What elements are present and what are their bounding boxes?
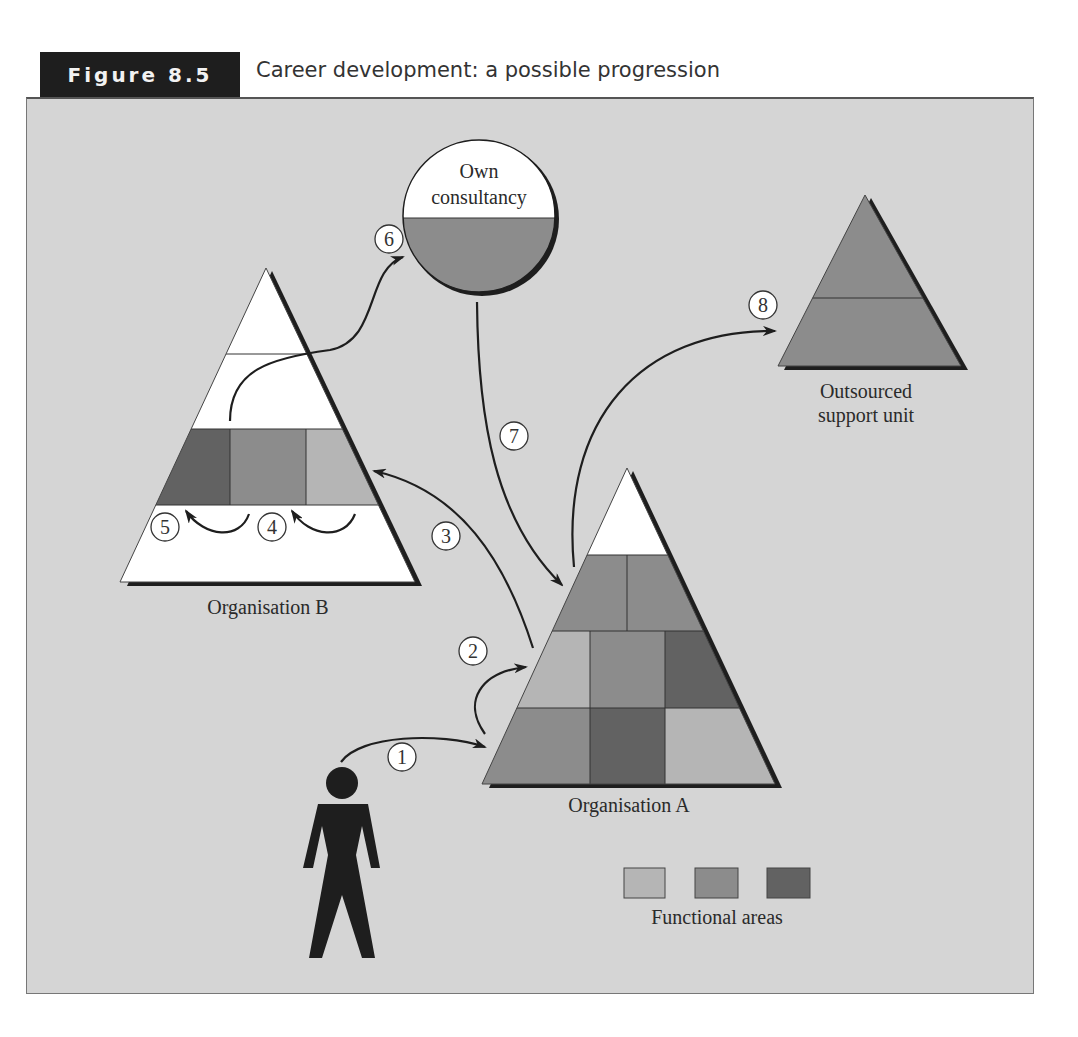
consultancy-label-line1: Own bbox=[460, 160, 499, 182]
outsourced-unit-pyramid: Outsourced support unit bbox=[770, 190, 970, 427]
svg-text:1: 1 bbox=[397, 746, 407, 768]
organisation-b-pyramid: Organisation B bbox=[100, 260, 440, 619]
svg-text:4: 4 bbox=[267, 516, 277, 538]
svg-text:5: 5 bbox=[160, 516, 170, 538]
legend: Functional areas bbox=[624, 868, 810, 928]
step-marker-5: 5 bbox=[151, 513, 179, 541]
organisation-b-label: Organisation B bbox=[207, 596, 328, 619]
org-b-area-mid bbox=[230, 429, 306, 505]
step-marker-4: 4 bbox=[258, 513, 286, 541]
outsourced-label-line1: Outsourced bbox=[820, 380, 912, 402]
consultancy-label-line2: consultancy bbox=[431, 186, 527, 209]
organisation-a-label: Organisation A bbox=[568, 794, 690, 817]
svg-text:6: 6 bbox=[384, 228, 394, 250]
legend-swatch-mid bbox=[695, 868, 738, 898]
svg-text:8: 8 bbox=[758, 294, 768, 316]
step-marker-3: 3 bbox=[432, 522, 460, 550]
step-marker-6: 6 bbox=[375, 225, 403, 253]
svg-text:7: 7 bbox=[509, 425, 519, 447]
svg-text:3: 3 bbox=[441, 525, 451, 547]
consultancy-node: Own consultancy bbox=[400, 138, 560, 298]
org-b-area-dark bbox=[100, 429, 230, 505]
svg-text:2: 2 bbox=[468, 640, 478, 662]
career-diagram: Own consultancy Organisation B bbox=[0, 0, 1078, 1037]
legend-swatch-dark bbox=[767, 868, 810, 898]
organisation-a-pyramid: Organisation A bbox=[470, 460, 790, 817]
step-marker-7: 7 bbox=[500, 422, 528, 450]
outsourced-label-line2: support unit bbox=[818, 404, 915, 427]
legend-swatch-light bbox=[624, 868, 665, 898]
step-marker-2: 2 bbox=[459, 637, 487, 665]
step-marker-1: 1 bbox=[388, 743, 416, 771]
legend-label: Functional areas bbox=[651, 906, 783, 928]
step-marker-8: 8 bbox=[749, 291, 777, 319]
person-icon bbox=[303, 767, 380, 958]
